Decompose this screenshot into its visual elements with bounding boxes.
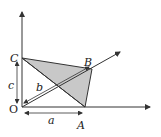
label-length-c: c — [8, 79, 14, 92]
triangle-diagram: C B O A c b a — [0, 0, 161, 137]
label-a-point: A — [76, 119, 85, 132]
triangle-abc — [22, 58, 92, 107]
label-length-b: b — [36, 81, 43, 94]
label-b-point: B — [83, 56, 92, 69]
label-c-point: C — [10, 52, 19, 65]
label-length-a: a — [48, 114, 55, 127]
label-o-point: O — [9, 103, 18, 116]
